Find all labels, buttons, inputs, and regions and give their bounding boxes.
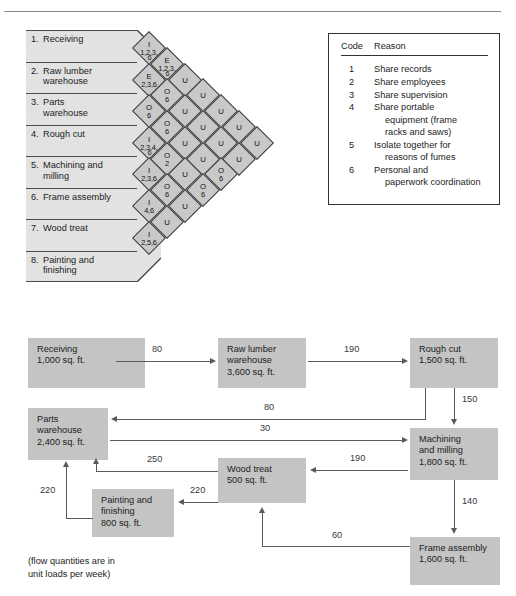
flow-label-wood-parts: 250 xyxy=(145,454,164,464)
relationship-reasons: 2,5,6 xyxy=(141,239,156,247)
flow-node-raw-lumber-area: 3,600 sq. ft. xyxy=(227,367,306,378)
relationship-diamond: U xyxy=(240,126,274,160)
flow-node-parts-warehouse: Parts warehouse 2,400 sq. ft. xyxy=(28,408,108,460)
flow-label-receiving-raw: 80 xyxy=(150,344,164,354)
flow-note: (flow quantities are in unit loads per w… xyxy=(28,555,115,580)
flow-line-rough-machining xyxy=(454,388,455,421)
flow-line-rough-parts-horz xyxy=(117,419,426,420)
legend-code: 5 xyxy=(341,139,374,164)
flow-node-raw-lumber-name2: warehouse xyxy=(227,355,306,366)
department-label-line1: Raw lumber xyxy=(43,66,92,76)
legend-reason-text: Isolate together for xyxy=(374,140,451,150)
legend-row: 3Share supervision xyxy=(341,89,499,101)
flow-line-machining-wood xyxy=(316,470,408,471)
flow-node-raw-lumber-name: Raw lumber xyxy=(227,344,306,355)
flow-line-frame-wood-vert xyxy=(262,512,263,547)
department-label: Frame assembly xyxy=(43,192,111,203)
flow-node-parts-name: Parts xyxy=(37,414,108,425)
relationship-reasons-overflow: 6 xyxy=(163,70,172,78)
flow-node-frame-name: Frame assembly xyxy=(419,543,500,554)
department-label-line1: Wood treat xyxy=(43,223,88,233)
relationship-reasons-overflow: 6 xyxy=(145,54,154,62)
department-label: Machining andmilling xyxy=(43,160,103,182)
department-label-line1: Rough cut xyxy=(43,129,85,139)
legend-row: 4Share portableequipment (frameracks and… xyxy=(341,101,499,138)
department-number: 6. xyxy=(31,192,43,203)
flow-label-wood-painting: 220 xyxy=(188,485,207,495)
department-number: 4. xyxy=(31,129,43,140)
flow-node-machining: Machining and milling 1,800 sq. ft. xyxy=(410,428,498,480)
department-label: Rough cut xyxy=(43,129,85,140)
legend-row: 5Isolate together forreasons of fumes xyxy=(341,139,499,164)
legend-reason-text: Share records xyxy=(374,64,432,74)
flow-line-wood-painting xyxy=(184,502,218,503)
flow-label-machining-wood: 190 xyxy=(348,453,367,463)
department-label-line2: warehouse xyxy=(43,76,92,87)
legend-row: 1Share records xyxy=(341,63,499,75)
flow-arrow-raw-rough xyxy=(402,358,408,364)
legend-reason-continuation: equipment (frame xyxy=(374,114,489,126)
legend-rows: 1Share records2Share employees3Share sup… xyxy=(329,56,499,188)
page-top-rule xyxy=(4,11,501,12)
legend-header: Code Reason xyxy=(329,34,499,55)
flow-note-line2: unit loads per week) xyxy=(28,568,115,581)
flow-node-frame-assembly: Frame assembly 1,600 sq. ft. xyxy=(410,537,500,585)
department-label-line1: Frame assembly xyxy=(43,192,111,202)
flow-node-painting-area: 800 sq. ft. xyxy=(101,518,174,529)
flow-node-receiving-name: Receiving xyxy=(37,344,145,355)
flow-line-machining-frame xyxy=(454,480,455,530)
relationship-diamond-content: U xyxy=(241,131,273,157)
legend-header-code: Code xyxy=(341,41,374,51)
flow-label-machining-frame: 140 xyxy=(460,496,479,506)
flow-label-rough-parts: 80 xyxy=(262,402,276,412)
legend-code: 3 xyxy=(341,89,374,101)
legend-reason: Share supervision xyxy=(374,89,489,101)
flow-arrow-rough-machining xyxy=(451,419,457,425)
department-label-line1: Receiving xyxy=(43,34,83,44)
flow-node-raw-lumber: Raw lumber warehouse 3,600 sq. ft. xyxy=(218,338,306,388)
department-label-line1: Painting and xyxy=(43,255,94,265)
flow-arrow-frame-wood xyxy=(259,507,265,513)
department-label: Raw lumberwarehouse xyxy=(43,66,92,88)
legend-reason-continuation: reasons of fumes xyxy=(374,151,489,163)
department-label-line2: milling xyxy=(43,171,103,182)
department-number: 3. xyxy=(31,97,43,108)
legend-reason-text: Personal and xyxy=(374,165,428,175)
flow-arrow-machining-wood xyxy=(310,467,316,473)
relationship-reasons: 6 xyxy=(219,176,223,184)
flow-node-painting-name: Painting and xyxy=(101,495,174,506)
reason-code-legend: Code Reason 1Share records2Share employe… xyxy=(328,33,500,205)
legend-row: 2Share employees xyxy=(341,76,499,88)
relationship-chart: 1.Receiving2.Raw lumberwarehouse3.Partsw… xyxy=(0,22,300,297)
flow-line-receiving-raw xyxy=(116,361,212,362)
flow-node-wood-treat: Wood treat 500 sq. ft. xyxy=(218,458,306,503)
legend-reason-text: Share employees xyxy=(374,77,446,87)
flow-node-machining-name: Machining xyxy=(419,434,498,445)
flow-label-rough-machining: 150 xyxy=(460,394,479,404)
flow-node-rough-cut: Rough cut 1,500 sq. ft. xyxy=(410,338,498,388)
legend-reason-continuation: paperwork coordination xyxy=(374,176,489,188)
material-flow-diagram: Receiving 1,000 sq. ft. Raw lumber wareh… xyxy=(0,330,516,596)
flow-label-painting-parts: 220 xyxy=(38,485,57,495)
legend-reason: Isolate together forreasons of fumes xyxy=(374,139,489,164)
flow-arrow-wood-parts xyxy=(93,458,99,464)
legend-reason-text: Share supervision xyxy=(374,90,448,100)
legend-reason: Share portableequipment (frameracks and … xyxy=(374,101,489,138)
legend-header-reason: Reason xyxy=(374,41,406,51)
flow-node-rough-cut-name: Rough cut xyxy=(419,344,498,355)
department-label: Wood treat xyxy=(43,223,88,234)
flow-line-wood-parts-vert xyxy=(96,463,97,472)
flow-note-line1: (flow quantities are in xyxy=(28,555,115,568)
legend-code: 4 xyxy=(341,101,374,138)
flow-node-painting-name2: finishing xyxy=(101,506,174,517)
department-number: 7. xyxy=(31,223,43,234)
relationship-code: U xyxy=(254,140,259,148)
legend-code: 6 xyxy=(341,164,374,189)
flow-line-painting-parts-horz xyxy=(66,518,93,519)
department-number: 8. xyxy=(31,255,43,266)
relationship-reasons: 6 xyxy=(201,192,205,200)
flow-line-painting-parts-vert xyxy=(66,467,67,519)
flow-arrow-parts-machining xyxy=(402,437,408,443)
flow-arrow-receiving-raw xyxy=(210,358,216,364)
legend-reason: Share employees xyxy=(374,76,489,88)
